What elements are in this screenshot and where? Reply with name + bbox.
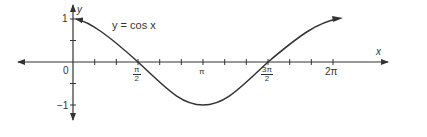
y-tick-label-1: 1 [62,14,68,24]
x-tick-label-2pi: 2π [325,67,337,77]
x-tick-label-3pi-over-2: 3π 2 [261,66,273,83]
x-axis-label: x [376,47,381,57]
y-axis-label: y [77,5,82,15]
curve-annotation: y = cos x [112,20,156,30]
x-tick-label-pi-over-2: π 2 [133,66,141,83]
origin-label: 0 [63,66,69,76]
y-tick-label-neg1: −1 [57,101,68,111]
x-tick-label-pi: π [199,67,205,77]
curve-end-arrow [332,16,343,22]
